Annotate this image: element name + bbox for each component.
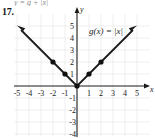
x-tick-label: 3 (111, 89, 115, 98)
point-neg1-1 (62, 71, 67, 76)
y-tick-label: 5 (70, 22, 74, 31)
x-tick-label: 4 (123, 89, 127, 98)
x-tick-label: 2 (99, 89, 103, 98)
x-tick-label: -3 (38, 89, 45, 98)
x-tick-label: -4 (26, 89, 33, 98)
x-tick-label: -5 (14, 89, 21, 98)
y-axis-label: y (79, 5, 84, 14)
graph-plot: y x g(x) = |x| -5 -4 -3 -2 -1 1 2 (0, 0, 155, 138)
y-tick-label: -2 (69, 106, 76, 115)
x-tick-label: 1 (87, 89, 91, 98)
y-tick-label: -3 (69, 118, 76, 127)
point-neg2-2 (50, 59, 55, 64)
y-tick-label: 1 (70, 70, 74, 79)
point-1-1 (86, 71, 91, 76)
x-axis-label: x (149, 85, 154, 94)
x-tick-label: -2 (50, 89, 57, 98)
x-tick-label: -1 (62, 89, 69, 98)
curve-left-branch (21, 30, 77, 86)
curve-right-branch (77, 30, 133, 86)
axes (14, 10, 148, 137)
point-0-0 (74, 83, 79, 88)
y-tick-label: -1 (69, 94, 76, 103)
y-tick-label: 2 (70, 58, 74, 67)
y-tick-label: 3 (70, 46, 74, 55)
y-axis-arrow (75, 7, 80, 13)
figure-container: y = g + |x| 17. (0, 0, 155, 138)
x-tick-labels: -5 -4 -3 -2 -1 1 2 3 4 5 (14, 89, 139, 98)
point-2-2 (98, 59, 103, 64)
y-tick-label: -4 (69, 130, 76, 138)
function-label: g(x) = |x| (89, 26, 123, 36)
y-tick-label: 4 (70, 34, 74, 43)
x-tick-label: 5 (135, 89, 139, 98)
